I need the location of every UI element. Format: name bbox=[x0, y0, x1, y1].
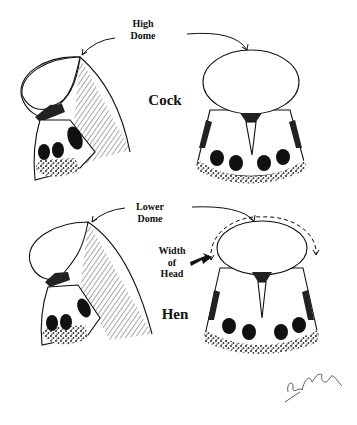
width-line2: of bbox=[152, 257, 192, 269]
high-dome-line2: Dome bbox=[118, 30, 168, 42]
high-dome-label: High Dome bbox=[118, 18, 168, 41]
lower-dome-label: Lower Dome bbox=[125, 201, 175, 224]
hen-front-head bbox=[205, 221, 318, 354]
hen-label: Hen bbox=[150, 306, 200, 323]
cock-profile-head bbox=[21, 57, 130, 180]
lower-dome-line1: Lower bbox=[125, 201, 175, 213]
width-line3: Head bbox=[152, 268, 192, 280]
cock-label: Cock bbox=[140, 92, 190, 109]
illustration-canvas bbox=[0, 0, 357, 425]
width-of-head-label: Width of Head bbox=[152, 245, 192, 280]
lower-dome-line2: Dome bbox=[125, 213, 175, 225]
width-line1: Width bbox=[152, 245, 192, 257]
cock-front-head bbox=[197, 50, 305, 184]
signature-scribble bbox=[285, 374, 342, 402]
hen-profile-head bbox=[29, 222, 152, 345]
hen-dome-arrow-left bbox=[92, 208, 125, 222]
cock-dome-arrow-right bbox=[187, 33, 247, 50]
width-arrow-icon bbox=[190, 253, 212, 266]
high-dome-line1: High bbox=[118, 18, 168, 30]
